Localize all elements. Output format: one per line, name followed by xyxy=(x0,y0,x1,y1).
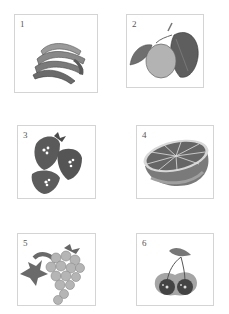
strawberry-icon xyxy=(30,132,90,194)
card-number: 1 xyxy=(20,20,25,29)
grapes-icon xyxy=(20,240,90,306)
fruit-card-2: 2 xyxy=(126,14,204,88)
fruit-card-1: 1 xyxy=(14,14,98,93)
apple-icon xyxy=(128,21,202,83)
orange-icon xyxy=(141,136,211,190)
cherries-icon xyxy=(151,241,201,301)
banana-icon xyxy=(31,37,91,87)
fruit-card-5: 5 xyxy=(17,233,96,306)
card-number: 3 xyxy=(23,131,28,140)
card-number: 6 xyxy=(142,239,147,248)
fruit-card-4: 4 xyxy=(136,125,214,199)
fruit-card-3: 3 xyxy=(17,125,96,199)
fruit-card-6: 6 xyxy=(136,233,214,306)
